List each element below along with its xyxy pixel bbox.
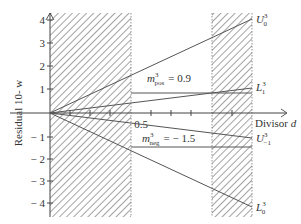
- label-l0: L30: [255, 200, 266, 216]
- label-m-neg: m3neg= − 1.5: [142, 131, 196, 147]
- label-m-pos: m3pos= 0.9: [147, 71, 191, 87]
- label-l1: L31: [255, 80, 266, 96]
- y-tick-label: − 1: [31, 131, 45, 143]
- y-tick-label: − 3: [31, 175, 46, 187]
- y-axis: 4 3 2 1 − 1 − 2 − 3 − 4 Residual 10- w: [12, 13, 54, 217]
- y-tick-label: 2: [40, 60, 46, 72]
- y-tick-label: − 4: [31, 197, 46, 209]
- label-u-1: U3−1: [256, 131, 271, 147]
- y-tick-label: 4: [40, 14, 46, 26]
- label-u0: U30: [256, 12, 268, 28]
- y-tick-label: − 2: [31, 153, 45, 165]
- y-tick-label: 3: [40, 37, 46, 49]
- y-tick-label: 1: [40, 83, 46, 95]
- residual-divisor-chart: 4 3 2 1 − 1 − 2 − 3 − 4 Residual 10- w 0…: [0, 0, 301, 224]
- x-axis-label: Divisor d: [255, 117, 297, 129]
